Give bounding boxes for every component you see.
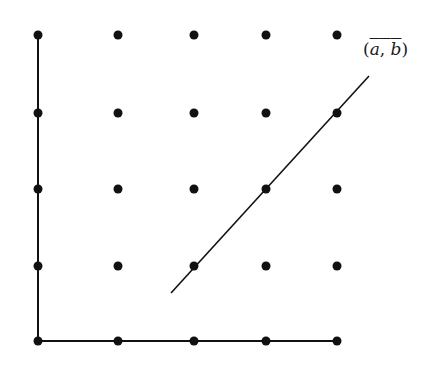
lattice-point bbox=[114, 185, 123, 194]
lattice-point bbox=[190, 109, 199, 118]
lattice-point bbox=[190, 185, 199, 194]
lattice-point bbox=[333, 31, 342, 40]
lattice-point bbox=[114, 31, 123, 40]
lattice-point bbox=[190, 262, 199, 271]
lattice-point bbox=[333, 262, 342, 271]
line-through-ab bbox=[171, 76, 369, 293]
lattice-point bbox=[262, 262, 271, 271]
lattice-point bbox=[190, 337, 199, 346]
lattice-point bbox=[262, 31, 271, 40]
lattice-point bbox=[333, 337, 342, 346]
lattice-points bbox=[34, 31, 342, 346]
label-comma: , bbox=[380, 39, 391, 59]
lattice-point bbox=[333, 185, 342, 194]
point-label-ab: (a, b) bbox=[363, 39, 408, 59]
lattice-point bbox=[262, 337, 271, 346]
lattice-point bbox=[114, 337, 123, 346]
lattice-point bbox=[262, 109, 271, 118]
lattice-point bbox=[190, 31, 199, 40]
lattice-point bbox=[34, 109, 43, 118]
label-b: b bbox=[391, 39, 402, 59]
lattice-point bbox=[114, 262, 123, 271]
lattice-point bbox=[34, 185, 43, 194]
lattice-point bbox=[333, 109, 342, 118]
lattice-point bbox=[34, 31, 43, 40]
label-a: a bbox=[370, 39, 380, 59]
lattice-point bbox=[34, 337, 43, 346]
label-close-paren: ) bbox=[401, 39, 408, 59]
lattice-point bbox=[34, 262, 43, 271]
lattice-point bbox=[262, 185, 271, 194]
lattice-point bbox=[114, 109, 123, 118]
label-open-paren: ( bbox=[363, 39, 370, 59]
